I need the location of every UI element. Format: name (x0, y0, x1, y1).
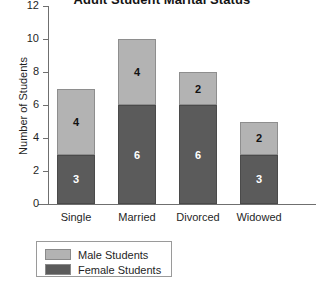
bar-segment-divorced-female: 6 (179, 105, 217, 204)
bar-single: 34 (57, 89, 95, 205)
bar-segment-widowed-female: 3 (240, 155, 278, 205)
legend-swatch-male (45, 249, 71, 260)
bar-segment-widowed-male: 2 (240, 122, 278, 155)
x-tick-label-single: Single (44, 211, 108, 223)
y-tick-label-4: 4 (0, 132, 39, 143)
y-tick-4 (43, 138, 49, 139)
bar-segment-single-female: 3 (57, 155, 95, 205)
y-tick-label-6: 6 (0, 99, 39, 110)
bar-married: 64 (118, 39, 156, 204)
chart-legend: Male StudentsFemale Students (36, 241, 172, 277)
y-tick-8 (43, 72, 49, 73)
bar-chart: Adult Student Marital Status Number of S… (0, 0, 324, 286)
y-tick-0 (43, 204, 49, 205)
legend-swatch-female (45, 264, 71, 275)
y-tick-label-0: 0 (0, 198, 39, 209)
bar-segment-married-female: 6 (118, 105, 156, 204)
bar-segment-divorced-male: 2 (179, 72, 217, 105)
x-axis-line (38, 204, 316, 205)
legend-label-female: Female Students (78, 264, 161, 276)
legend-item-female: Female Students (45, 263, 161, 276)
y-tick-label-8: 8 (0, 66, 39, 77)
bar-segment-single-male: 4 (57, 89, 95, 155)
legend-label-male: Male Students (78, 249, 148, 261)
bar-segment-married-male: 4 (118, 39, 156, 105)
y-tick-6 (43, 105, 49, 106)
x-tick-label-divorced: Divorced (166, 211, 230, 223)
x-tick-label-widowed: Widowed (227, 211, 291, 223)
y-tick-label-2: 2 (0, 165, 39, 176)
y-tick-12 (43, 6, 49, 7)
y-tick-label-10: 10 (0, 33, 39, 44)
bar-widowed: 32 (240, 122, 278, 205)
y-tick-10 (43, 39, 49, 40)
x-tick-label-married: Married (105, 211, 169, 223)
legend-item-male: Male Students (45, 248, 148, 261)
y-tick-2 (43, 171, 49, 172)
bar-divorced: 62 (179, 72, 217, 204)
y-tick-label-12: 12 (0, 0, 39, 11)
